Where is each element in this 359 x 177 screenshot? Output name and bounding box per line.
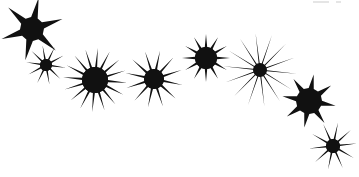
star-4-core: [144, 69, 164, 89]
artifact-1: [313, 1, 329, 3]
artwork-canvas: six-point starten-point small burstsixte…: [0, 0, 359, 177]
star-6-core: [254, 64, 266, 76]
artifact-2: [336, 1, 341, 3]
starburst-cluster: six-point starten-point small burstsixte…: [0, 0, 359, 177]
background: [0, 0, 359, 177]
star-5-core: [195, 47, 217, 69]
star-2-core: [40, 59, 52, 71]
star-8-core: [326, 139, 340, 153]
star-3-core: [82, 67, 108, 93]
